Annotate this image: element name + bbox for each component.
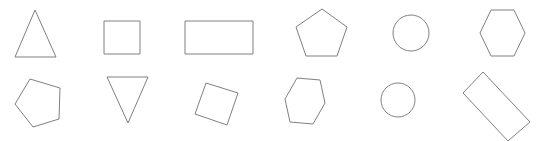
shape-triangle-up bbox=[15, 10, 56, 57]
shapes-canvas bbox=[0, 0, 542, 141]
shape-square-rotated bbox=[195, 83, 238, 125]
shape-triangle-down bbox=[107, 77, 148, 123]
shape-rectangle-rotated bbox=[463, 72, 530, 141]
shape-circle-bottom bbox=[381, 83, 415, 117]
shape-hexagon bbox=[480, 10, 525, 56]
shape-pentagon-rotated bbox=[15, 79, 60, 127]
shape-pentagon bbox=[296, 9, 347, 56]
shape-hexagon-rotated bbox=[285, 78, 325, 124]
shape-rectangle bbox=[185, 21, 253, 54]
shapes-svg bbox=[0, 0, 542, 141]
shape-circle-top bbox=[393, 15, 429, 51]
shape-square bbox=[104, 21, 140, 54]
